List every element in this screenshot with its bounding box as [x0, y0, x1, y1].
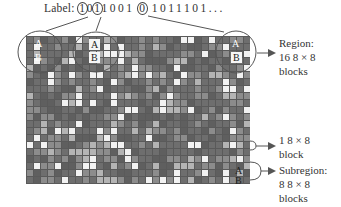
grid-cell — [216, 163, 222, 169]
marker-a-left: A — [35, 38, 42, 49]
grid-cell — [41, 170, 47, 176]
grid-cell — [230, 114, 236, 120]
grid-cell — [125, 37, 131, 43]
grid-cell — [111, 72, 117, 78]
grid-cell — [195, 177, 201, 183]
bits-tail: 1011101... — [152, 2, 225, 14]
grid-cell — [34, 107, 40, 113]
grid-cell — [41, 100, 47, 106]
grid-cell — [237, 135, 243, 141]
grid-cell — [244, 149, 250, 155]
grid-cell — [139, 44, 145, 50]
marker-b-center: B — [89, 52, 100, 63]
grid-cell — [160, 163, 166, 169]
grid-cell — [209, 79, 215, 85]
grid-cell — [55, 65, 61, 71]
grid-cell — [34, 86, 40, 92]
grid-cell — [97, 107, 103, 113]
grid-cell — [90, 121, 96, 127]
grid-cell — [76, 177, 82, 183]
grid-cell — [181, 93, 187, 99]
grid-cell — [174, 37, 180, 43]
grid-cell — [104, 51, 110, 57]
grid-cell — [27, 72, 33, 78]
grid-cell — [153, 65, 159, 71]
grid-cell — [55, 135, 61, 141]
grid-cell — [153, 86, 159, 92]
grid-cell — [27, 142, 33, 148]
grid-cell — [34, 163, 40, 169]
grid-cell — [167, 51, 173, 57]
grid-cell — [41, 156, 47, 162]
grid-cell — [104, 72, 110, 78]
grid-cell — [167, 107, 173, 113]
grid-cell — [104, 79, 110, 85]
grid-cell — [125, 44, 131, 50]
grid-cell — [132, 72, 138, 78]
grid-cell — [237, 100, 243, 106]
grid-cell — [69, 79, 75, 85]
grid-cell — [181, 170, 187, 176]
grid-cell — [27, 65, 33, 71]
grid-cell — [104, 156, 110, 162]
grid-cell — [188, 149, 194, 155]
grid-cell — [90, 177, 96, 183]
grid-cell — [55, 79, 61, 85]
grid-cell — [132, 65, 138, 71]
grid-cell — [69, 65, 75, 71]
grid-cell — [125, 156, 131, 162]
grid-cell — [104, 177, 110, 183]
grid-cell — [244, 65, 250, 71]
region-title: Region: — [279, 36, 315, 50]
grid-cell — [237, 86, 243, 92]
grid-cell — [195, 156, 201, 162]
grid-cell — [202, 177, 208, 183]
grid-cell — [195, 37, 201, 43]
grid-cell — [237, 93, 243, 99]
grid-cell — [48, 100, 54, 106]
grid-cell — [244, 163, 250, 169]
grid-cell — [118, 114, 124, 120]
grid-cell — [83, 37, 89, 43]
grid-cell — [48, 37, 54, 43]
grid-cell — [223, 79, 229, 85]
grid-cell — [139, 100, 145, 106]
grid-cell — [237, 65, 243, 71]
grid-cell — [146, 72, 152, 78]
grid-cell — [139, 121, 145, 127]
annotation-region: Region: 16 8 × 8 blocks — [279, 36, 315, 78]
grid-cell — [209, 142, 215, 148]
grid-cell — [237, 142, 243, 148]
grid-cell — [160, 149, 166, 155]
grid-cell — [125, 149, 131, 155]
grid-cell — [188, 79, 194, 85]
grid-cell — [48, 44, 54, 50]
grid-cell — [48, 156, 54, 162]
grid-cell — [223, 128, 229, 134]
grid-cell — [76, 93, 82, 99]
grid-cell — [69, 37, 75, 43]
grid-cell — [181, 58, 187, 64]
grid-cell — [174, 79, 180, 85]
grid-cell — [97, 156, 103, 162]
circled-bit-3: 0 — [137, 2, 148, 15]
grid-cell — [216, 58, 222, 64]
grid-cell — [90, 107, 96, 113]
grid-cell — [195, 149, 201, 155]
grid-cell — [223, 142, 229, 148]
grid-cell — [160, 72, 166, 78]
grid-cell — [97, 93, 103, 99]
grid-cell — [41, 114, 47, 120]
grid-cell — [69, 135, 75, 141]
grid-cell — [167, 149, 173, 155]
annotation-block: 1 8 × 8 block — [279, 133, 310, 161]
grid-cell — [216, 86, 222, 92]
grid-cell — [160, 135, 166, 141]
grid-cell — [55, 177, 61, 183]
grid-cell — [111, 177, 117, 183]
grid-cell — [209, 86, 215, 92]
grid-cell — [167, 170, 173, 176]
grid-cell — [34, 156, 40, 162]
grid-cell — [48, 114, 54, 120]
grid-cell — [223, 100, 229, 106]
